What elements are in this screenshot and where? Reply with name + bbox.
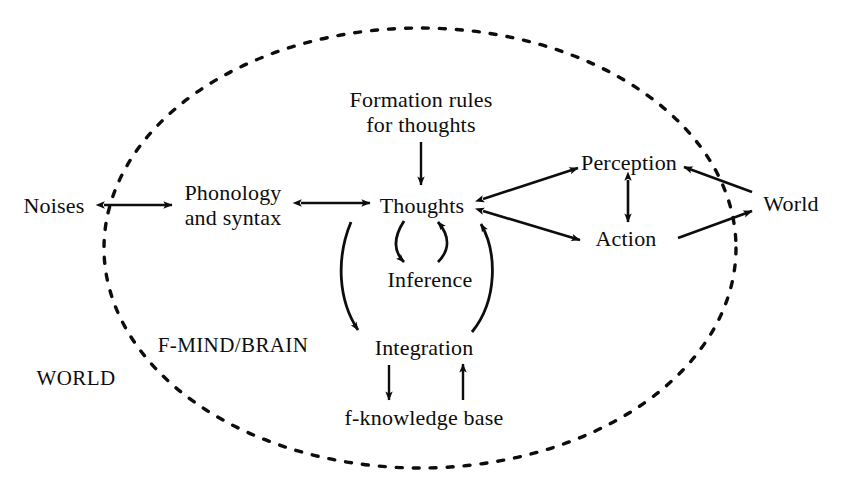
node-world: World	[763, 191, 818, 216]
region-label-world: WORLD	[37, 366, 116, 390]
edge-thoughts-action	[483, 211, 580, 240]
region-label-f-mind-brain: F-MIND/BRAIN	[158, 333, 309, 357]
edge-action-world	[678, 211, 752, 238]
node-phonology-syntax-line2: and syntax	[153, 205, 313, 230]
node-action: Action	[595, 226, 656, 251]
node-formation-rules-line1: Formation rules	[306, 87, 536, 112]
node-perception: Perception	[581, 150, 677, 175]
diagram-canvas: Noises Phonology and syntax Formation ru…	[0, 0, 844, 486]
node-thoughts: Thoughts	[380, 193, 465, 218]
node-formation-rules-line2: for thoughts	[306, 112, 536, 137]
node-f-knowledge-base: f-knowledge base	[345, 405, 504, 430]
edge-integration-thoughts	[472, 224, 492, 332]
node-noises: Noises	[23, 193, 84, 218]
edge-thoughts-inference	[396, 221, 404, 262]
edge-thoughts-integration	[341, 222, 358, 330]
edge-inference-thoughts	[438, 222, 447, 262]
edge-thoughts-perception	[483, 168, 578, 199]
node-formation-rules: Formation rules for thoughts	[306, 87, 536, 137]
edge-world-perception	[684, 167, 752, 192]
node-inference: Inference	[388, 267, 473, 292]
node-integration: Integration	[375, 335, 474, 360]
node-phonology-syntax: Phonology and syntax	[153, 180, 313, 230]
node-phonology-syntax-line1: Phonology	[153, 180, 313, 205]
